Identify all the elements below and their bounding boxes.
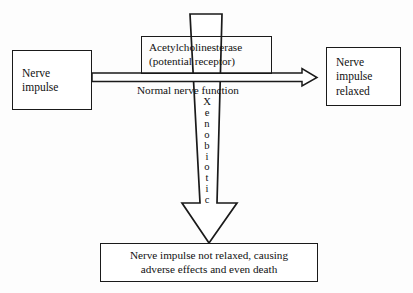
node-acetylcholinesterase-line2: (potential receptor) (149, 55, 271, 69)
xenobiotic-letter-4: b (204, 141, 209, 152)
edge-label-normal-nerve-function: Normal nerve function (137, 84, 239, 96)
node-outcome-line2: adverse effects and even death (141, 263, 277, 277)
node-nerve-impulse: Nerve impulse (12, 50, 92, 110)
node-acetylcholinesterase: Acetylcholinesterase (potential receptor… (141, 36, 272, 74)
node-nerve-impulse-line2: impulse (22, 80, 91, 94)
node-nerve-impulse-relaxed-line1: Nerve (336, 55, 400, 69)
node-nerve-impulse-relaxed-line3: relaxed (336, 84, 400, 98)
node-outcome: Nerve impulse not relaxed, causing adver… (100, 243, 318, 282)
xenobiotic-letter-3: o (204, 130, 209, 141)
node-nerve-impulse-relaxed-line2: impulse (336, 69, 400, 83)
node-acetylcholinesterase-line1: Acetylcholinesterase (149, 41, 271, 55)
node-nerve-impulse-relaxed: Nerve impulse relaxed (326, 47, 401, 106)
diagram-canvas: Nerve impulse Acetylcholinesterase (pote… (0, 0, 413, 293)
node-nerve-impulse-line1: Nerve (22, 66, 91, 80)
edge-label-xenobiotic: Xenobiotic (200, 97, 214, 206)
xenobiotic-letter-9: c (205, 195, 210, 206)
node-outcome-line1: Nerve impulse not relaxed, causing (130, 249, 288, 263)
